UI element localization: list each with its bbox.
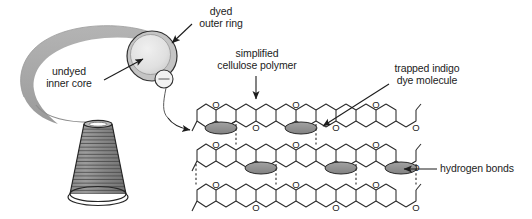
indigo-dye-ellipse [205, 122, 237, 134]
oxygen-atom: O [412, 122, 419, 133]
indigo-dye-molecules [205, 122, 417, 174]
thread-cone [68, 120, 128, 205]
oxygen-atom: O [332, 122, 339, 133]
oxygen-atom: O [372, 139, 379, 150]
oxygen-atom: O [292, 139, 299, 150]
indigo-dye-ellipse [325, 162, 357, 174]
oxygen-atom: O [332, 202, 339, 213]
indigo-dye-ellipse [245, 162, 277, 174]
yarn-cross-section [127, 31, 177, 88]
oxygen-atom: O [372, 179, 379, 190]
indigo-dye-ellipse [285, 122, 317, 134]
label-undyed-inner-core: undyed inner core [32, 66, 106, 89]
oxygen-atom: O [252, 122, 259, 133]
indigo-dye-ellipse [385, 162, 417, 174]
oxygen-atom: O [252, 202, 259, 213]
oxygen-atom: O [212, 99, 219, 110]
oxygen-atom: O [292, 99, 299, 110]
oxygen-atom: O [212, 179, 219, 190]
label-trapped-indigo-dye-molecule: trapped indigo dye molecule [382, 63, 472, 86]
oxygen-atom: O [212, 139, 219, 150]
oxygen-atom: O [412, 202, 419, 213]
label-dyed-outer-ring: dyed outer ring [186, 6, 256, 29]
thread-strand [36, 105, 100, 122]
label-simplified-cellulose-polymer: simplified cellulose polymer [209, 48, 305, 71]
label-hydrogen-bonds: hydrogen bonds [440, 163, 532, 175]
cellulose-lattice [192, 104, 421, 211]
lattice-row-3 [192, 184, 421, 211]
diagram-svg: O O O O O O O O O O O O O O O O O O [0, 0, 532, 219]
oxygen-atom: O [372, 99, 379, 110]
figure-canvas: O O O O O O O O O O O O O O O O O O [0, 0, 532, 219]
oxygen-atom: O [292, 179, 299, 190]
callout-arrow-to-lattice [164, 88, 190, 130]
